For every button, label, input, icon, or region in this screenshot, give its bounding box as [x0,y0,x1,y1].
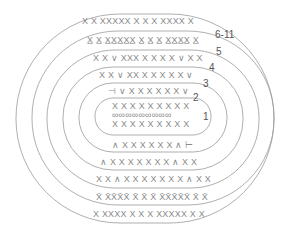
crochet-chart: X X XXXXX X X X XXXX XX̲ X̲ X̲X̲X̲X̲X̲ X… [0,0,284,239]
row-label: 3 [203,79,209,89]
row-label: 5 [216,47,222,57]
stitch-row: X X ∨ XXX X X X X ∨ X X [93,54,203,63]
stitch-row: X X X X X X X X X [112,120,189,129]
row-label: 6-11 [215,30,234,40]
row-label: 1 [203,112,209,122]
row-label: 2 [193,93,199,103]
stitch-row: ∧ X X X X X X ∧ ⊢ [112,141,193,150]
stitch-row: X XXXX X X X XXXXX X X [93,210,205,219]
stitch-row: X X ∨ XX X X X X X ∨ [99,71,194,80]
stitch-row: X X XXXXX X X X XXXX X [82,17,194,26]
stitch-row: X̲ X̲ X̲X̲X̲X̲X̲ X̲ X̲ X̲ X̲X̲X̲X̲ X̲ [87,36,199,45]
stitch-row: ⊣ ∨ X X X X X X ∨ [108,87,189,96]
stitch-row: X X ∧ X X X X X X X ∧ X X [96,175,211,184]
stitch-row: X̄ X̄X̄X̄X̄ X̄ X̄ X̄ X̄X̄X̄X̄X̄ X̄ X̄ [96,193,208,202]
stitch-row: ∧ X X X X X X X ∧ X X [100,158,197,167]
row-label: 4 [209,63,215,73]
